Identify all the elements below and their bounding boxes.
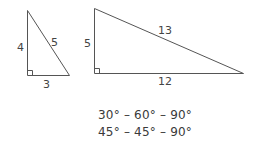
angles-30-60-90: 30° – 60° – 90° [98,108,192,122]
label-base-3: 3 [43,79,50,90]
label-hypotenuse-5: 5 [51,37,58,48]
label-side-5: 5 [84,38,91,49]
triangle-5-12-13 [95,9,244,74]
label-side-4: 4 [17,42,24,53]
right-angle-marker [95,69,100,74]
angles-45-45-90: 45° – 45° – 90° [98,125,192,139]
right-angle-marker [28,71,33,76]
label-base-12: 12 [158,76,172,87]
triangle-3-4-5 [28,11,70,76]
label-hypotenuse-13: 13 [158,25,172,36]
